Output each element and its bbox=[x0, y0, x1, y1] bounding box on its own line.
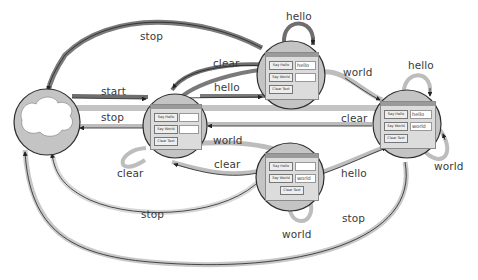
label-hello-loop-right: hello bbox=[408, 59, 434, 71]
window-state-both: Say Hello hello Say World world Clear Te… bbox=[380, 101, 436, 149]
say-hello-button[interactable]: Say Hello bbox=[384, 110, 408, 119]
say-hello-button[interactable]: Say Hello bbox=[269, 162, 293, 171]
hello-field[interactable]: hello bbox=[410, 110, 432, 119]
clear-text-button[interactable]: Clear Text bbox=[269, 85, 293, 94]
clear-text-button[interactable]: Clear Text bbox=[154, 137, 178, 146]
label-world-loop-bottom: world bbox=[282, 228, 311, 240]
window-state-world: Say Hello Say World world Clear Text bbox=[265, 153, 319, 201]
hello-field[interactable] bbox=[179, 113, 199, 122]
label-hello-mid: hello bbox=[214, 81, 240, 93]
window-titlebar bbox=[266, 154, 318, 158]
say-world-button[interactable]: Say World bbox=[269, 73, 293, 82]
label-hello-bottom-right: hello bbox=[341, 167, 367, 179]
edge-clear-loop-left bbox=[123, 148, 146, 167]
label-start: start bbox=[101, 85, 126, 97]
say-world-button[interactable]: Say World bbox=[384, 122, 408, 131]
world-field[interactable]: world bbox=[410, 122, 432, 131]
label-stop-bottom-inner: stop bbox=[141, 208, 164, 220]
label-stop-bottom-outer: stop bbox=[342, 212, 365, 224]
hello-field[interactable] bbox=[295, 162, 316, 171]
window-titlebar bbox=[266, 53, 318, 57]
say-world-button[interactable]: Say World bbox=[269, 174, 293, 183]
label-hello-loop-top: hello bbox=[286, 10, 312, 22]
say-hello-button[interactable]: Say Hello bbox=[154, 113, 178, 122]
label-clear-top: clear bbox=[213, 57, 239, 69]
state-initial bbox=[14, 89, 80, 155]
say-world-button[interactable]: Say World bbox=[154, 125, 178, 134]
window-state-hello: Say Hello hello Say World Clear Text bbox=[265, 52, 319, 100]
window-titlebar bbox=[151, 105, 201, 109]
world-field[interactable]: world bbox=[295, 174, 316, 183]
world-field[interactable] bbox=[295, 73, 316, 82]
label-world-top-right: world bbox=[343, 66, 372, 78]
world-field[interactable] bbox=[179, 125, 199, 134]
clear-text-button[interactable]: Clear Text bbox=[280, 186, 304, 195]
label-world-loop-right: world bbox=[434, 160, 463, 172]
hello-field[interactable]: hello bbox=[295, 61, 316, 70]
label-clear-right: clear bbox=[341, 112, 367, 124]
label-clear-center: clear bbox=[214, 158, 240, 170]
window-state-empty: Say Hello Say World Clear Text bbox=[150, 104, 202, 150]
window-titlebar bbox=[381, 102, 435, 106]
label-world-center: world bbox=[213, 134, 242, 146]
clear-text-button[interactable]: Clear Text bbox=[384, 134, 408, 143]
label-clear-loop-left: clear bbox=[117, 167, 143, 179]
label-stop-mid: stop bbox=[101, 111, 124, 123]
label-stop-top: stop bbox=[140, 30, 163, 42]
say-hello-button[interactable]: Say Hello bbox=[269, 61, 293, 70]
